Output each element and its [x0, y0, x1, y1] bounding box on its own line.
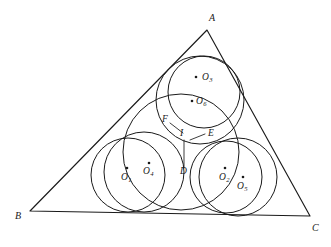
circle-group	[91, 56, 277, 216]
point-label-e: E	[207, 128, 214, 138]
center-dot-o2	[224, 167, 227, 170]
center-label-o2: O2	[219, 172, 230, 183]
center-label-o4: O4	[143, 166, 154, 177]
center-label-o5: O5	[237, 181, 248, 192]
point-label-f: F	[161, 114, 168, 124]
center-dot-group	[126, 76, 245, 179]
leader-e	[190, 134, 205, 140]
center-dot-o1	[126, 167, 129, 170]
vertex-label-c: C	[312, 222, 319, 233]
geometry-figure: O1O4O2O5O3O6 A B C I D E F	[0, 0, 331, 247]
center-dot-o3	[195, 76, 198, 79]
center-dot-o4	[148, 162, 151, 165]
vertex-label-b: B	[15, 210, 21, 221]
circle-incircle	[123, 94, 239, 210]
center-dot-o6	[191, 100, 194, 103]
vertex-label-a: A	[208, 12, 216, 23]
center-label-o6: O6	[196, 96, 207, 107]
geometry-canvas: O1O4O2O5O3O6 A B C I D E F	[0, 0, 331, 247]
center-label-o3: O3	[202, 72, 213, 83]
center-dot-o5	[242, 176, 245, 179]
center-label-o1: O1	[121, 172, 132, 183]
point-label-d: D	[179, 166, 187, 176]
leader-line-group	[170, 123, 205, 168]
circle-o5	[199, 138, 277, 216]
